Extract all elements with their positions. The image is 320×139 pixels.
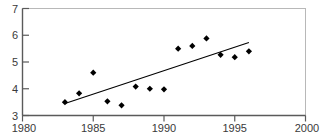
y-tick-label-6: 6 — [12, 29, 18, 41]
y-tick-label-4: 4 — [12, 83, 18, 95]
x-tick-label-2000: 2000 — [295, 122, 319, 134]
y-tick-label-3: 3 — [12, 110, 18, 122]
x-tick-marks — [23, 116, 306, 122]
x-tick-label-1990: 1990 — [152, 122, 176, 134]
y-tick-label-7: 7 — [12, 3, 18, 15]
x-tick-label-1995: 1995 — [223, 122, 247, 134]
scatter-chart: 3 4 5 6 7 1980 1985 1990 1995 2000 — [0, 0, 320, 139]
x-tick-label-1985: 1985 — [81, 122, 105, 134]
y-tick-label-5: 5 — [12, 56, 18, 68]
plot-area: 3 4 5 6 7 1980 1985 1990 1995 2000 — [0, 0, 320, 139]
x-tick-label-1980: 1980 — [12, 122, 36, 134]
